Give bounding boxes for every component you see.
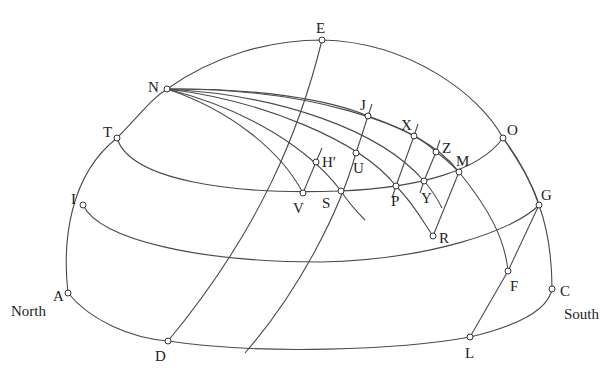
segment-Z-Y [420, 140, 440, 193]
point-X [411, 133, 417, 139]
meridian-U-bottom [245, 153, 356, 353]
label-A: A [53, 288, 64, 304]
label-M: M [456, 153, 469, 169]
label-Y: Y [421, 190, 432, 206]
point-M [456, 169, 462, 175]
point-U [353, 150, 359, 156]
point-O [500, 135, 506, 141]
label-G: G [541, 187, 552, 203]
label-X: X [401, 117, 412, 133]
point-A [65, 290, 71, 296]
arc-N-V [167, 89, 303, 193]
horizon-arc [68, 289, 552, 349]
point-T [114, 135, 120, 141]
point-R [430, 233, 436, 239]
label-D: D [155, 348, 166, 364]
point-J [365, 113, 371, 119]
sphere-diagram: N E T O I G A C D L F J X Z M U H′ V S P… [0, 0, 616, 377]
label-H: H′ [322, 154, 336, 170]
north-label: North [11, 303, 46, 319]
point-E [319, 37, 325, 43]
outer-meridian-arc [66, 40, 552, 293]
label-R: R [439, 230, 449, 246]
point-N [164, 86, 170, 92]
label-U: U [353, 160, 364, 176]
point-P [393, 183, 399, 189]
point-Z [433, 149, 439, 155]
point-V [300, 190, 306, 196]
label-I: I [71, 191, 76, 207]
label-P: P [391, 193, 399, 209]
parallel-I-G [83, 205, 539, 262]
meridian-E-D [168, 40, 322, 341]
label-V: V [293, 200, 304, 216]
arc-N-J-X-Z-M [167, 89, 459, 172]
label-N: N [148, 79, 159, 95]
point-L [467, 334, 473, 340]
label-E: E [316, 20, 325, 36]
label-C: C [560, 283, 570, 299]
south-label: South [564, 306, 600, 322]
label-S: S [322, 195, 330, 211]
label-J: J [360, 97, 366, 113]
point-C [549, 286, 555, 292]
point-H [313, 159, 319, 165]
label-F: F [510, 278, 518, 294]
point-F [505, 268, 511, 274]
point-S [338, 188, 344, 194]
segment-M-R [433, 172, 459, 236]
point-I [80, 202, 86, 208]
label-Z: Z [442, 140, 451, 156]
point-Y [421, 178, 427, 184]
label-T: T [103, 124, 112, 140]
point-D [165, 338, 171, 344]
arc-O-G [503, 138, 539, 205]
label-O: O [507, 122, 518, 138]
label-L: L [465, 345, 474, 361]
